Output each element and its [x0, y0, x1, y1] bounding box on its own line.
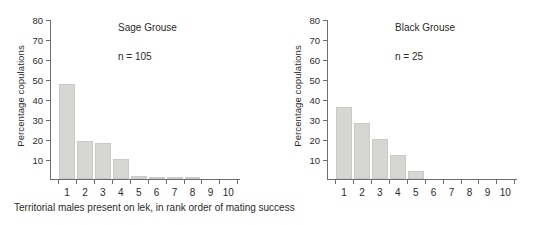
bar: [95, 143, 111, 179]
x-tick-mark: [461, 180, 462, 184]
x-tick-label: 6: [154, 187, 160, 198]
y-tick-mark: [46, 100, 50, 101]
bar: [336, 107, 352, 179]
x-tick-mark: [514, 180, 515, 184]
y-tick-label: 70: [32, 35, 43, 46]
y-tick-mark: [46, 40, 50, 41]
x-tick-label: 10: [223, 187, 234, 198]
y-tick-mark: [323, 20, 327, 21]
grouse-mating-success-figure: Percentage copulations Sage Grouse n = 1…: [0, 0, 554, 225]
y-tick-label: 20: [309, 135, 320, 146]
bar: [185, 177, 201, 179]
y-tick-mark: [46, 140, 50, 141]
bar: [372, 139, 388, 179]
x-tick-mark: [76, 180, 77, 184]
y-axis-label: Percentage copulations: [14, 6, 28, 186]
x-tick-label: 5: [136, 187, 142, 198]
y-tick-label: 40: [32, 95, 43, 106]
x-tick-mark: [237, 180, 238, 184]
y-tick-mark: [323, 60, 327, 61]
plot-area: 102030405060708012345678910: [327, 20, 517, 180]
x-tick-label: 8: [467, 187, 473, 198]
x-tick-mark: [371, 180, 372, 184]
y-tick-label: 30: [32, 115, 43, 126]
x-tick-label: 8: [190, 187, 196, 198]
y-tick-label: 50: [32, 75, 43, 86]
x-tick-mark: [407, 180, 408, 184]
plot-area: 102030405060708012345678910: [50, 20, 240, 180]
y-axis-line: [50, 20, 51, 180]
y-tick-label: 60: [309, 55, 320, 66]
x-tick-label: 3: [377, 187, 383, 198]
x-tick-label: 7: [449, 187, 455, 198]
y-tick-label: 10: [309, 155, 320, 166]
x-tick-mark: [335, 180, 336, 184]
x-tick-label: 7: [172, 187, 178, 198]
y-tick-mark: [46, 20, 50, 21]
x-tick-mark: [219, 180, 220, 184]
y-tick-label: 30: [309, 115, 320, 126]
y-tick-mark: [46, 160, 50, 161]
bar: [354, 123, 370, 179]
x-tick-mark: [184, 180, 185, 184]
bar: [77, 141, 93, 179]
y-tick-mark: [323, 80, 327, 81]
x-tick-mark: [130, 180, 131, 184]
y-axis-line: [327, 20, 328, 180]
x-tick-mark: [425, 180, 426, 184]
y-tick-label: 40: [309, 95, 320, 106]
x-tick-mark: [389, 180, 390, 184]
bar: [408, 171, 424, 179]
chart-panel-sage-grouse: Percentage copulations Sage Grouse n = 1…: [0, 0, 277, 200]
y-tick-mark: [323, 100, 327, 101]
bar: [131, 176, 147, 179]
bar: [59, 84, 75, 179]
x-tick-mark: [201, 180, 202, 184]
y-tick-label: 80: [32, 15, 43, 26]
y-tick-label: 50: [309, 75, 320, 86]
x-tick-label: 10: [500, 187, 511, 198]
x-tick-label: 6: [431, 187, 437, 198]
x-tick-label: 1: [341, 187, 347, 198]
x-tick-label: 4: [118, 187, 124, 198]
y-tick-mark: [46, 80, 50, 81]
x-tick-label: 3: [100, 187, 106, 198]
y-tick-label: 10: [32, 155, 43, 166]
y-tick-mark: [46, 120, 50, 121]
bar: [149, 177, 165, 179]
figure-caption: Territorial males present on lek, in ran…: [14, 202, 295, 213]
x-tick-label: 1: [64, 187, 70, 198]
y-axis-label: Percentage copulations: [291, 6, 305, 186]
x-axis-line: [327, 179, 517, 180]
bar: [390, 155, 406, 179]
x-tick-mark: [58, 180, 59, 184]
x-tick-mark: [496, 180, 497, 184]
x-tick-mark: [443, 180, 444, 184]
y-tick-mark: [323, 160, 327, 161]
y-tick-mark: [323, 120, 327, 121]
chart-panel-black-grouse: Percentage copulations Black Grouse n = …: [277, 0, 554, 200]
x-tick-mark: [94, 180, 95, 184]
x-tick-label: 9: [485, 187, 491, 198]
y-tick-label: 80: [309, 15, 320, 26]
y-tick-label: 60: [32, 55, 43, 66]
x-tick-mark: [353, 180, 354, 184]
y-tick-label: 70: [309, 35, 320, 46]
x-tick-mark: [112, 180, 113, 184]
x-tick-mark: [148, 180, 149, 184]
bar: [113, 159, 129, 179]
x-axis-line: [50, 179, 240, 180]
y-tick-label: 20: [32, 135, 43, 146]
x-tick-label: 2: [359, 187, 365, 198]
x-tick-mark: [478, 180, 479, 184]
x-tick-label: 9: [208, 187, 214, 198]
y-tick-mark: [323, 40, 327, 41]
x-tick-label: 5: [413, 187, 419, 198]
bar: [167, 177, 183, 179]
x-tick-label: 4: [395, 187, 401, 198]
x-tick-label: 2: [82, 187, 88, 198]
y-tick-mark: [323, 140, 327, 141]
x-tick-mark: [166, 180, 167, 184]
y-tick-mark: [46, 60, 50, 61]
